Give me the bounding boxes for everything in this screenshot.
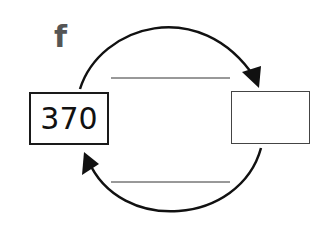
problem-label: f xyxy=(54,22,67,52)
bottom-arrowhead-icon xyxy=(82,152,99,175)
bottom-arrow-arc xyxy=(88,148,261,211)
top-arrow-arc xyxy=(80,27,255,89)
input-value: 370 xyxy=(40,101,97,136)
input-box: 370 xyxy=(29,92,109,145)
top-arrowhead-icon xyxy=(242,66,261,88)
output-box[interactable] xyxy=(231,91,310,144)
